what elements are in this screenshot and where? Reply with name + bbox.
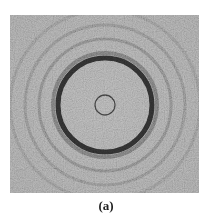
figure-caption: (a) (0, 198, 212, 214)
micrograph-panel (10, 15, 199, 193)
ring-pattern-image (10, 15, 199, 193)
figure: (a) (0, 0, 212, 219)
